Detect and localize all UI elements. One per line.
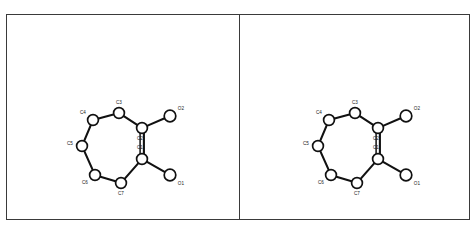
atom-label-c4: C4 (80, 110, 86, 115)
atom-layer: C1C2C3C4C5C6C7O2O1 (303, 100, 421, 196)
bond-C1-O1 (146, 161, 165, 172)
figure-root: C1C2C3C4C5C6C7O2O1 C1C2C3C4C5C6C7O2O1 (0, 0, 476, 233)
atom-label-c5: C5 (303, 141, 309, 146)
bond-C3-C4 (334, 114, 351, 119)
atom-label-c7: C7 (118, 191, 124, 196)
bond-C7-C1 (124, 163, 139, 180)
bond-C2-O2 (382, 118, 401, 126)
molecule-diagram-left: C1C2C3C4C5C6C7O2O1 (7, 15, 239, 219)
atom-c1 (137, 154, 148, 165)
atom-c5 (313, 141, 324, 152)
bond-C2-O2 (146, 118, 165, 126)
atom-label-c6: C6 (82, 180, 88, 185)
atom-label-c6: C6 (318, 180, 324, 185)
bond-C2-C3 (123, 116, 138, 126)
atom-label-o1: O1 (178, 181, 185, 186)
atom-c2 (137, 123, 148, 134)
atom-c4 (88, 115, 99, 126)
atom-label-c3: C3 (352, 100, 358, 105)
bond-C2-C3 (359, 116, 374, 126)
atom-label-c2: C2 (137, 136, 143, 141)
atom-c6 (326, 170, 337, 181)
atom-label-o1: O1 (414, 181, 421, 186)
atom-c3 (350, 108, 361, 119)
atom-c3 (114, 108, 125, 119)
atom-label-o2: O2 (414, 106, 421, 111)
stereo-panel-right: C1C2C3C4C5C6C7O2O1 (240, 15, 472, 219)
atom-label-o2: O2 (178, 106, 185, 111)
bond-C1-O1 (382, 161, 401, 172)
bond-C4-C5 (84, 124, 91, 141)
atom-c7 (116, 178, 127, 189)
bond-C5-C6 (84, 150, 93, 170)
bond-C6-C7 (100, 176, 117, 181)
atom-o1 (400, 169, 412, 181)
atom-c2 (373, 123, 384, 134)
atom-c7 (352, 178, 363, 189)
atom-o2 (164, 110, 176, 122)
figure-frame: C1C2C3C4C5C6C7O2O1 C1C2C3C4C5C6C7O2O1 (6, 14, 470, 220)
atom-label-c4: C4 (316, 110, 322, 115)
atom-label-c1: C1 (137, 145, 143, 150)
atom-label-c2: C2 (373, 136, 379, 141)
atom-c4 (324, 115, 335, 126)
bond-C4-C5 (320, 124, 327, 141)
atom-layer: C1C2C3C4C5C6C7O2O1 (67, 100, 185, 196)
bond-C7-C1 (360, 163, 375, 180)
molecule-diagram-right: C1C2C3C4C5C6C7O2O1 (240, 15, 472, 219)
atom-c1 (373, 154, 384, 165)
atom-label-c5: C5 (67, 141, 73, 146)
atom-label-c3: C3 (116, 100, 122, 105)
atom-o1 (164, 169, 176, 181)
atom-label-c1: C1 (373, 145, 379, 150)
atom-o2 (400, 110, 412, 122)
stereo-panel-left: C1C2C3C4C5C6C7O2O1 (7, 15, 239, 219)
atom-label-c7: C7 (354, 191, 360, 196)
bond-C5-C6 (320, 150, 329, 170)
atom-c6 (90, 170, 101, 181)
atom-c5 (77, 141, 88, 152)
bond-C6-C7 (336, 176, 353, 181)
bond-C3-C4 (98, 114, 115, 119)
